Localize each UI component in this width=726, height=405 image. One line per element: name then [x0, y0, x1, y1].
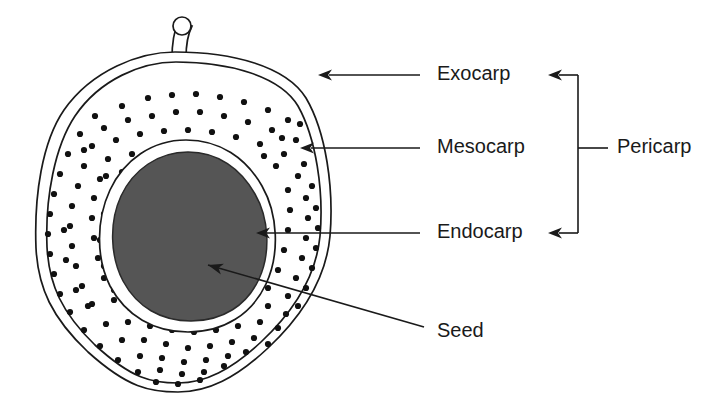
mesocarp-dot [129, 151, 135, 157]
mesocarp-dot [91, 235, 97, 241]
mesocarp-dot [313, 205, 319, 211]
mesocarp-dot [203, 357, 209, 363]
mesocarp-dot [137, 353, 143, 359]
mesocarp-dot [299, 255, 305, 261]
seed-body [113, 152, 267, 321]
mesocarp-dot [315, 225, 321, 231]
mesocarp-dot [125, 319, 131, 325]
mesocarp-dot [283, 311, 289, 317]
mesocarp-dot [137, 131, 143, 137]
mesocarp-dot [173, 109, 179, 115]
mesocarp-dot [51, 191, 57, 197]
mesocarp-dot [269, 127, 275, 133]
mesocarp-dot [47, 251, 53, 257]
mesocarp-dot [209, 129, 215, 135]
mesocarp-dot [161, 128, 167, 134]
mesocarp-dot [89, 143, 95, 149]
mesocarp-dot [75, 183, 81, 189]
mesocarp-dot [51, 271, 57, 277]
mesocarp-dot [119, 337, 125, 343]
mesocarp-dot [197, 109, 203, 115]
stem-tip-icon [173, 17, 191, 35]
mesocarp-dot [57, 171, 63, 177]
mesocarp-dot [245, 119, 251, 125]
mesocarp-dot [287, 207, 293, 213]
fruit-structure-diagram: Exocarp Mesocarp Endocarp Seed Pericarp [0, 0, 726, 405]
mesocarp-dot [309, 265, 315, 271]
mesocarp-dot [179, 371, 185, 377]
mesocarp-dot [275, 325, 281, 331]
pericarp-bracket [548, 70, 608, 239]
mesocarp-dot [285, 117, 291, 123]
mesocarp-dot [221, 113, 227, 119]
mesocarp-dot [69, 243, 75, 249]
mesocarp-dot [67, 223, 73, 229]
mesocarp-dot [309, 183, 315, 189]
mesocarp-dot [279, 135, 285, 141]
mesocarp-dot [63, 257, 69, 263]
mesocarp-dot [273, 163, 279, 169]
mesocarp-dot [257, 141, 263, 147]
mesocarp-dot [153, 379, 159, 385]
mesocarp-dot [77, 131, 83, 137]
mesocarp-dot [89, 215, 95, 221]
mesocarp-dot [115, 357, 121, 363]
mesocarp-dot [197, 377, 203, 383]
mesocarp-dot [45, 231, 51, 237]
mesocarp-dot [135, 369, 141, 375]
mesocarp-dot [92, 113, 98, 119]
mesocarp-dot [257, 319, 263, 325]
mesocarp-dot [303, 195, 309, 201]
exocarp-label: Exocarp [437, 62, 510, 84]
mesocarp-dot [113, 137, 119, 143]
mesocarp-dot [97, 343, 103, 349]
mesocarp-dot [265, 303, 271, 309]
mesocarp-dot [225, 353, 231, 359]
mesocarp-dot [97, 176, 103, 182]
mesocarp-dot [265, 341, 271, 347]
mesocarp-dot [159, 355, 165, 361]
mesocarp-dot [281, 151, 287, 157]
mesocarp-dot [61, 227, 67, 233]
mesocarp-dot [169, 92, 175, 98]
mesocarp-dot [281, 247, 287, 253]
mesocarp-dot [251, 335, 257, 341]
mesocarp-dot [73, 263, 79, 269]
mesocarp-dot [57, 291, 63, 297]
mesocarp-dot [81, 163, 87, 169]
mesocarp-dot [275, 267, 281, 273]
diagram-canvas: Exocarp Mesocarp Endocarp Seed Pericarp [0, 0, 726, 405]
mesocarp-label: Mesocarp [437, 135, 525, 157]
mesocarp-dot [185, 345, 191, 351]
mesocarp-dot [301, 161, 307, 167]
mesocarp-dot [243, 349, 249, 355]
mesocarp-dot [73, 287, 79, 293]
mesocarp-dot [303, 235, 309, 241]
mesocarp-dot [295, 173, 301, 179]
mesocarp-dot [85, 303, 91, 309]
endocarp-label: Endocarp [437, 220, 523, 242]
mesocarp-dot [235, 323, 241, 329]
mesocarp-dot [141, 337, 147, 343]
mesocarp-dot [69, 203, 75, 209]
mesocarp-dot [81, 327, 87, 333]
mesocarp-dot [285, 227, 291, 233]
mesocarp-dot [305, 215, 311, 221]
mesocarp-dot [285, 187, 291, 193]
fruit-illustration [36, 17, 331, 392]
mesocarp-dot [295, 303, 301, 309]
mesocarp-dot [47, 211, 53, 217]
pericarp-label: Pericarp [617, 135, 691, 157]
mesocarp-dot [145, 95, 151, 101]
mesocarp-dot [303, 285, 309, 291]
mesocarp-dot [125, 117, 131, 123]
mesocarp-dot [285, 293, 291, 299]
mesocarp-dot [241, 99, 247, 105]
mesocarp-dot [293, 275, 299, 281]
diagram-labels: Exocarp Mesocarp Endocarp Seed Pericarp [437, 62, 691, 341]
mesocarp-dot [229, 339, 235, 345]
mesocarp-dot [233, 134, 239, 140]
mesocarp-dot [181, 359, 187, 365]
mesocarp-dot [163, 341, 169, 347]
mesocarp-dot [207, 343, 213, 349]
